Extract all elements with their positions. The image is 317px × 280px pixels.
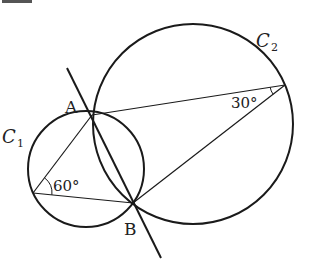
- diagram-svg: A B 60° 30° C 1 C 2: [0, 0, 317, 280]
- label-circle-c2-sub: 2: [271, 41, 278, 54]
- label-circle-c1-sub: 1: [17, 137, 24, 150]
- label-point-b: B: [124, 219, 137, 239]
- geometry-diagram: A B 60° 30° C 1 C 2: [0, 0, 317, 280]
- segment-p-b: [33, 193, 133, 203]
- label-angle-60: 60°: [53, 177, 80, 195]
- label-circle-c1: C: [2, 126, 16, 147]
- label-point-a: A: [64, 97, 78, 117]
- segment-q-b: [133, 85, 285, 203]
- secant-line-ab: [67, 68, 161, 258]
- angle-arc-30: [270, 87, 273, 94]
- label-angle-30: 30°: [231, 94, 258, 112]
- label-circle-c2: C: [256, 30, 270, 51]
- angle-arc-60: [45, 178, 53, 195]
- circle-c1: [28, 111, 144, 227]
